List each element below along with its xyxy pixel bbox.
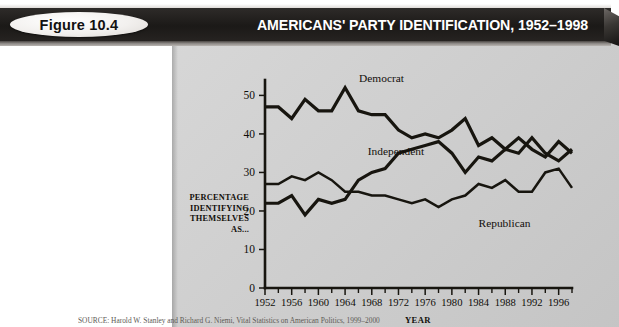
series-label-independent: Independent [368, 145, 425, 157]
x-tick-label-1952: 1952 [254, 297, 275, 308]
chart-plot-area: 01020304050 1952195619601964196819721976… [172, 40, 619, 327]
y-tick-label-0: 0 [249, 282, 255, 294]
x-tick-label-1980: 1980 [441, 297, 462, 308]
y-tick-label-10: 10 [244, 243, 256, 255]
figure-root: Figure 10.4 AMERICANS' PARTY IDENTIFICAT… [0, 0, 619, 327]
y-axis-title-line-3: THEMSELVES [190, 214, 249, 223]
y-tick-group: 01020304050 [244, 89, 266, 294]
x-tick-label-1956: 1956 [281, 297, 302, 308]
y-tick-label-40: 40 [244, 128, 256, 140]
x-tick-label-1992: 1992 [521, 297, 542, 308]
x-tick-label-1964: 1964 [334, 297, 356, 308]
x-tick-label-1968: 1968 [361, 297, 382, 308]
x-tick-label-1996: 1996 [548, 297, 569, 308]
series-label-republican: Republican [479, 217, 531, 229]
y-axis-title-line-1: PERCENTAGE [189, 193, 249, 202]
y-axis-title-group: PERCENTAGEIDENTIFYINGTHEMSELVESAS... [189, 193, 249, 234]
x-tick-label-1976: 1976 [415, 297, 436, 308]
x-tick-label-1960: 1960 [308, 297, 329, 308]
x-tick-label-1984: 1984 [468, 297, 490, 308]
y-axis-title-line-4: AS... [231, 225, 249, 234]
figure-title: AMERICANS' PARTY IDENTIFICATION, 1952–19… [245, 13, 600, 37]
y-tick-label-50: 50 [244, 89, 256, 101]
x-tick-label-1988: 1988 [495, 297, 516, 308]
series-label-democrat: Democrat [359, 72, 405, 84]
figure-number-badge: Figure 10.4 [10, 12, 148, 37]
series-line-republican [265, 169, 572, 208]
figure-number-label: Figure 10.4 [40, 17, 119, 33]
y-tick-label-30: 30 [244, 166, 256, 178]
y-axis-title-line-2: IDENTIFYING [190, 204, 249, 213]
x-tick-label-1972: 1972 [388, 297, 409, 308]
source-note: SOURCE: Harold W. Stanley and Richard G.… [78, 316, 618, 327]
line-chart-svg: 01020304050 1952195619601964196819721976… [172, 40, 619, 327]
